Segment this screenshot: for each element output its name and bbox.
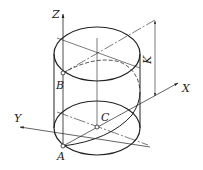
point-b-label: B xyxy=(55,79,64,92)
top-y-line xyxy=(57,38,140,68)
point-b-marker xyxy=(61,71,65,75)
point-a-label: A xyxy=(56,150,65,163)
z-axis-label: Z xyxy=(51,8,60,21)
k-dimension-label: K xyxy=(141,55,154,65)
point-c-label: C xyxy=(101,111,110,124)
y-axis xyxy=(20,127,150,147)
cylinder-diagram: Z X Y K B C A xyxy=(0,0,203,170)
point-c-marker xyxy=(95,125,99,129)
y-axis-label: Y xyxy=(14,112,23,125)
x-axis-label: X xyxy=(181,82,191,95)
helix-back xyxy=(63,60,140,90)
point-a-marker xyxy=(61,144,65,148)
